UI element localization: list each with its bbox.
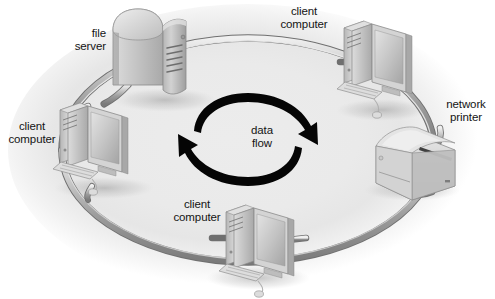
server-power-button [181,35,185,39]
label-data-flow: data flow [236,124,288,150]
label-client-top-line1: client [266,5,342,18]
label-client-computer-top: client computer [266,5,342,31]
label-file-server: file server [50,27,106,53]
label-printer-line1: network [438,98,494,111]
label-client-left-line2: computer [1,133,63,146]
label-data-flow-line1: data [236,124,288,137]
label-client-left-line1: client [1,120,63,133]
label-data-flow-line2: flow [236,137,288,150]
ring-network-diagram: file server client computer network prin… [0,0,495,299]
mouse-icon [255,291,264,297]
label-client-computer-bottom: client computer [158,198,236,224]
label-file-server-line2: server [50,40,106,53]
printer-status-light [445,180,450,182]
mouse-icon [89,189,98,195]
mouse-icon [373,112,382,118]
label-client-bottom-line2: computer [158,211,236,224]
label-printer-line2: printer [438,111,494,124]
label-file-server-line1: file [50,27,106,40]
label-client-computer-left: client computer [1,120,63,146]
label-network-printer: network printer [438,98,494,124]
label-client-bottom-line1: client [158,198,236,211]
label-client-top-line2: computer [266,18,342,31]
